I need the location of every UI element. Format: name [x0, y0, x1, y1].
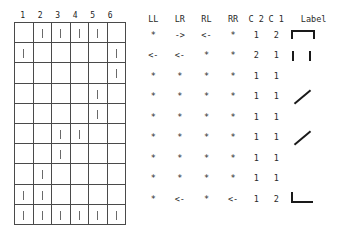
cell-c2: 1	[246, 148, 266, 169]
grid-cell[interactable]	[52, 123, 71, 143]
grid-cell[interactable]	[107, 23, 126, 43]
grid-cell[interactable]	[89, 23, 108, 43]
table-row[interactable]: ****11	[140, 148, 338, 169]
grid-cell[interactable]	[107, 63, 126, 83]
cell-label	[286, 169, 338, 190]
grid-cell[interactable]	[89, 63, 108, 83]
grid-cell[interactable]	[52, 144, 71, 164]
table-row[interactable]: <-<-**21	[140, 46, 338, 67]
grid-cell[interactable]	[52, 63, 71, 83]
empty-cell-icon	[60, 110, 61, 119]
cell-c1: 1	[266, 46, 286, 67]
cell-c2: 1	[246, 66, 266, 87]
grid-cell[interactable]	[52, 83, 71, 103]
grid-cell[interactable]	[33, 123, 52, 143]
grid-cell[interactable]	[15, 63, 34, 83]
grid-cell[interactable]	[52, 184, 71, 204]
cell-rr: *	[220, 66, 247, 87]
grid-cell[interactable]	[107, 83, 126, 103]
cell-rl: *	[193, 169, 220, 190]
grid-cell[interactable]	[52, 23, 71, 43]
empty-cell-icon	[60, 69, 61, 78]
grid-cell[interactable]	[52, 204, 71, 224]
grid-cell[interactable]	[89, 184, 108, 204]
grid-cell[interactable]	[89, 83, 108, 103]
grid-cell[interactable]	[70, 164, 89, 184]
table-row[interactable]: ****11	[140, 169, 338, 190]
cell-lr: *	[167, 148, 194, 169]
cell-ll: *	[140, 107, 167, 128]
grid-cell[interactable]	[52, 43, 71, 63]
grid-cell[interactable]	[107, 164, 126, 184]
table-row[interactable]: ****11	[140, 107, 338, 128]
grid-cell[interactable]	[70, 103, 89, 123]
table-row[interactable]: *<-*<-12	[140, 189, 338, 210]
grid-cell[interactable]	[15, 123, 34, 143]
grid-cell[interactable]	[70, 63, 89, 83]
column-header-c1: C 1	[266, 12, 286, 25]
grid-cell[interactable]	[33, 43, 52, 63]
cell-lr: <-	[167, 46, 194, 67]
grid-cell[interactable]	[70, 83, 89, 103]
cell-rl: *	[193, 107, 220, 128]
grid-cell[interactable]	[70, 123, 89, 143]
grid-cell[interactable]	[33, 63, 52, 83]
grid-cell[interactable]	[89, 204, 108, 224]
grid-cell[interactable]	[107, 103, 126, 123]
grid-cell[interactable]	[107, 144, 126, 164]
grid-cell[interactable]	[15, 23, 34, 43]
cell-ll: *	[140, 189, 167, 210]
cell-c2: 1	[246, 107, 266, 128]
grid-cell[interactable]	[15, 184, 34, 204]
cell-label	[286, 148, 338, 169]
grid-cell[interactable]	[89, 164, 108, 184]
grid-cell[interactable]	[107, 184, 126, 204]
grid-cell[interactable]	[89, 144, 108, 164]
grid-cell[interactable]	[33, 23, 52, 43]
grid-cell[interactable]	[15, 43, 34, 63]
table-row[interactable]: ****11	[140, 128, 338, 149]
grid-cell[interactable]	[89, 43, 108, 63]
tick-mark-icon	[60, 211, 61, 220]
empty-cell-icon	[60, 90, 61, 99]
grid-cell[interactable]	[15, 103, 34, 123]
cell-rl: *	[193, 87, 220, 108]
grid-cell[interactable]	[15, 83, 34, 103]
grid-cell[interactable]	[52, 164, 71, 184]
empty-cell-icon	[79, 49, 80, 58]
cell-label	[286, 189, 338, 210]
grid-cell[interactable]	[89, 103, 108, 123]
grid-cell[interactable]	[15, 164, 34, 184]
grid-cell[interactable]	[33, 144, 52, 164]
table-row[interactable]: ****11	[140, 87, 338, 108]
grid-cell[interactable]	[89, 123, 108, 143]
grid-cell[interactable]	[15, 204, 34, 224]
grid-cell[interactable]	[107, 204, 126, 224]
table-row[interactable]: *-><-*12	[140, 25, 338, 46]
grid-body	[15, 23, 126, 225]
grid-cell[interactable]	[70, 184, 89, 204]
grid-cell[interactable]	[107, 43, 126, 63]
cell-c1: 1	[266, 66, 286, 87]
grid-cell[interactable]	[52, 103, 71, 123]
grid-cell[interactable]	[33, 184, 52, 204]
text-table-panel: LLLRRLRRC 2C 1Label *-><-*12<-<-**21****…	[140, 12, 338, 210]
grid-cell[interactable]	[70, 144, 89, 164]
grid-cell[interactable]	[70, 23, 89, 43]
grid-cell[interactable]	[33, 164, 52, 184]
table-row[interactable]: ****11	[140, 66, 338, 87]
grid-cell[interactable]	[70, 43, 89, 63]
grid-cell[interactable]	[33, 204, 52, 224]
transitions-table-body: *-><-*12<-<-**21****11****11****11****11…	[140, 25, 338, 210]
grid-cell[interactable]	[33, 103, 52, 123]
grid-cell[interactable]	[70, 204, 89, 224]
cell-lr: *	[167, 128, 194, 149]
cell-c2: 1	[246, 25, 266, 46]
cell-label	[286, 107, 338, 128]
grid-cell[interactable]	[107, 123, 126, 143]
grid-cell[interactable]	[33, 83, 52, 103]
cell-rr: *	[220, 107, 247, 128]
grid-cell[interactable]	[15, 144, 34, 164]
label-two-bars-icon	[289, 47, 333, 65]
grid-row	[15, 103, 126, 123]
